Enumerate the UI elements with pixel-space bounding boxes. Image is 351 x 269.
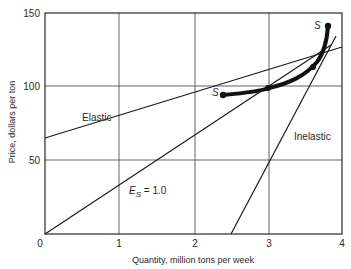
label-es: ES = 1.0 bbox=[129, 185, 167, 199]
ytick-50: 50 bbox=[29, 155, 41, 166]
xtick-1: 1 bbox=[116, 238, 122, 249]
curve-point-start bbox=[220, 92, 226, 98]
label-s-low: S bbox=[212, 87, 219, 98]
supply-elasticity-chart: Elastic Inelastic ES = 1.0 S S 150 100 5… bbox=[0, 0, 351, 269]
grid bbox=[45, 13, 342, 234]
label-elastic: Elastic bbox=[82, 112, 111, 123]
curve-point-tangent-unit bbox=[265, 85, 271, 91]
x-axis-label: Quantity, million tons per week bbox=[132, 255, 254, 265]
xtick-3: 3 bbox=[266, 238, 272, 249]
ytick-150: 150 bbox=[23, 8, 40, 19]
supply-curve-s bbox=[223, 26, 328, 95]
curve-point-tangent-inelastic bbox=[310, 64, 316, 70]
unit-elastic-supply-line bbox=[45, 45, 331, 234]
xtick-2: 2 bbox=[192, 238, 198, 249]
xtick-4: 4 bbox=[339, 238, 345, 249]
ytick-100: 100 bbox=[23, 81, 40, 92]
curve-point-end bbox=[325, 23, 331, 29]
y-axis-label: Price, dollars per ton bbox=[7, 81, 17, 164]
label-s-high: S bbox=[314, 20, 321, 31]
elastic-supply-line bbox=[45, 47, 342, 138]
plot-frame bbox=[45, 13, 342, 234]
xtick-0: 0 bbox=[37, 238, 43, 249]
label-inelastic: Inelastic bbox=[294, 131, 331, 142]
